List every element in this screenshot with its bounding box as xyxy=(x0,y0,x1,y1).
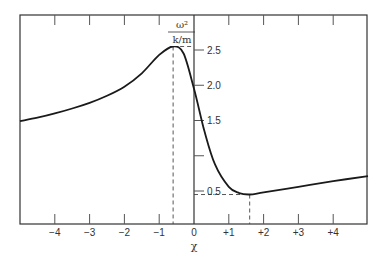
x-tick-label: +2 xyxy=(258,227,270,238)
x-tick-label: +1 xyxy=(223,227,235,238)
y-axis-label-denominator: k/m xyxy=(173,34,192,45)
dashed-guides xyxy=(173,46,250,224)
x-tick-label: +3 xyxy=(293,227,305,238)
x-tick-label: −4 xyxy=(49,227,61,238)
chart: −4−3−2−10+1+2+3+40.51.52.02.5 χ ω² k/m xyxy=(0,0,383,257)
y-tick-label: 0.5 xyxy=(207,186,221,197)
x-tick-label: −3 xyxy=(84,227,96,238)
x-tick-label: 0 xyxy=(191,227,197,238)
x-tick-label: −1 xyxy=(153,227,165,238)
y-tick-label: 1.5 xyxy=(207,115,221,126)
x-tick-label: +4 xyxy=(327,227,339,238)
y-tick-label: 2.0 xyxy=(207,80,221,91)
x-axis-label: χ xyxy=(191,240,198,253)
x-tick-label: −2 xyxy=(119,227,131,238)
y-axis-label-numerator: ω² xyxy=(176,19,188,30)
y-tick-label: 2.5 xyxy=(207,45,221,56)
plot-frame xyxy=(20,15,367,224)
